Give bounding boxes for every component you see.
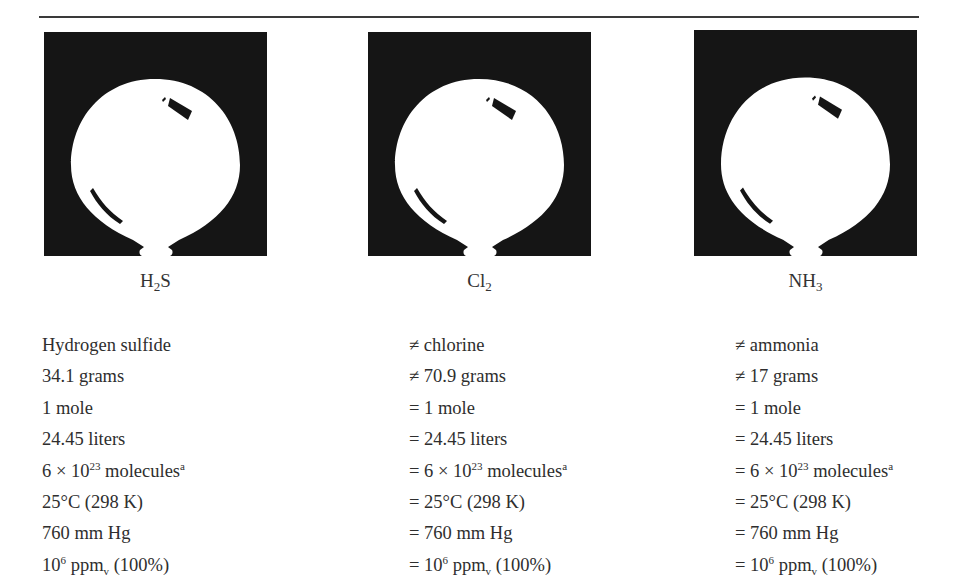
- compound-moles: 1 mole: [42, 395, 185, 426]
- balloon-panel-h2s: [44, 32, 267, 256]
- compound-volume: = 24.45 liters: [735, 426, 893, 457]
- compound-molecules: = 6 × 1023 moleculesa: [409, 458, 567, 489]
- compound-mass: 34.1 grams: [42, 363, 185, 394]
- compound-temperature: = 25°C (298 K): [735, 489, 893, 520]
- compound-pressure: = 760 mm Hg: [409, 520, 567, 551]
- compound-temperature: = 25°C (298 K): [409, 489, 567, 520]
- formula-nh3: NH3: [694, 270, 917, 292]
- balloon-icon: [694, 30, 917, 256]
- formula-cl2: Cl2: [368, 270, 591, 292]
- top-rule: [39, 16, 919, 18]
- compound-name: Hydrogen sulfide: [42, 332, 185, 363]
- compound-pressure: = 760 mm Hg: [735, 520, 893, 551]
- balloon-panel-cl2: [368, 32, 591, 256]
- compound-name: ≠ ammonia: [735, 332, 893, 363]
- compound-name: ≠ chlorine: [409, 332, 567, 363]
- compound-volume: = 24.45 liters: [409, 426, 567, 457]
- compound-concentration: = 106 ppmv (100%): [409, 552, 567, 579]
- properties-column-cl2: ≠ chlorine ≠ 70.9 grams = 1 mole = 24.45…: [409, 332, 567, 579]
- compound-temperature: 25°C (298 K): [42, 489, 185, 520]
- compound-molecules: 6 × 1023 moleculesa: [42, 458, 185, 489]
- compound-volume: 24.45 liters: [42, 426, 185, 457]
- compound-concentration: = 106 ppmv (100%): [735, 552, 893, 579]
- compound-pressure: 760 mm Hg: [42, 520, 185, 551]
- compound-molecules: = 6 × 1023 moleculesa: [735, 458, 893, 489]
- balloon-panel-nh3: [694, 30, 917, 256]
- compound-mass: ≠ 17 grams: [735, 363, 893, 394]
- compound-concentration: 106 ppmv (100%): [42, 552, 185, 579]
- properties-column-h2s: Hydrogen sulfide 34.1 grams 1 mole 24.45…: [42, 332, 185, 579]
- compound-mass: ≠ 70.9 grams: [409, 363, 567, 394]
- balloon-icon: [368, 32, 591, 256]
- balloon-icon: [44, 32, 267, 256]
- properties-column-nh3: ≠ ammonia ≠ 17 grams = 1 mole = 24.45 li…: [735, 332, 893, 579]
- formula-h2s: H2S: [44, 270, 267, 292]
- compound-moles: = 1 mole: [409, 395, 567, 426]
- compound-moles: = 1 mole: [735, 395, 893, 426]
